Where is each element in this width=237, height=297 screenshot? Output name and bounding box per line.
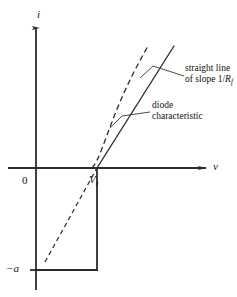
origin-label: 0 [22, 174, 28, 186]
figure-canvas [0, 0, 237, 297]
slope-prefix: of slope 1/ [185, 74, 225, 84]
y-axis-label: i [37, 8, 40, 20]
x-axis-label: v [213, 160, 218, 172]
diode-characteristic-figure: i v 0 Vγ −a straight line of slope 1/Rf … [0, 0, 237, 297]
straight-line-annotation-line1: straight line [185, 63, 233, 74]
neg-a-label: −a [6, 262, 19, 274]
straight-line-annotation-line2: of slope 1/Rf [185, 74, 233, 86]
diode-characteristic-curve [92, 46, 148, 168]
straight-line-annotation: straight line of slope 1/Rf [185, 63, 233, 86]
knee-voltage-subscript: γ [96, 179, 99, 186]
resistance-subscript: f [231, 78, 233, 86]
knee-voltage-label: Vγ [89, 173, 98, 187]
straight-line-leader [140, 66, 184, 78]
diode-annotation-line1: diode [152, 100, 203, 111]
knee-voltage-base: V [89, 173, 96, 185]
diode-leader [110, 112, 150, 128]
diode-annotation: diode characteristic [152, 100, 203, 121]
neg-a-base: a [13, 262, 19, 274]
diode-annotation-line2: characteristic [152, 111, 203, 122]
